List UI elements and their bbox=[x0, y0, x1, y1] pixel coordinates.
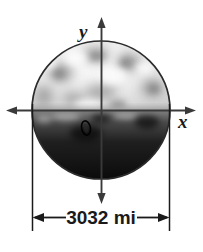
x-axis-arrow-left bbox=[6, 106, 17, 114]
planet-diameter-diagram: y x 3032 mi bbox=[0, 0, 203, 252]
diameter-label: 3032 mi bbox=[66, 207, 136, 228]
figure-container: y x 3032 mi bbox=[0, 0, 203, 252]
x-axis-label: x bbox=[177, 111, 188, 132]
dimension-arrow-right bbox=[137, 213, 170, 222]
y-axis-arrow-down bbox=[97, 193, 105, 204]
y-axis-arrow-up bbox=[97, 17, 105, 28]
dimension-arrow-left bbox=[33, 213, 67, 222]
y-axis-label: y bbox=[77, 21, 88, 42]
coordinate-axes bbox=[6, 17, 196, 204]
